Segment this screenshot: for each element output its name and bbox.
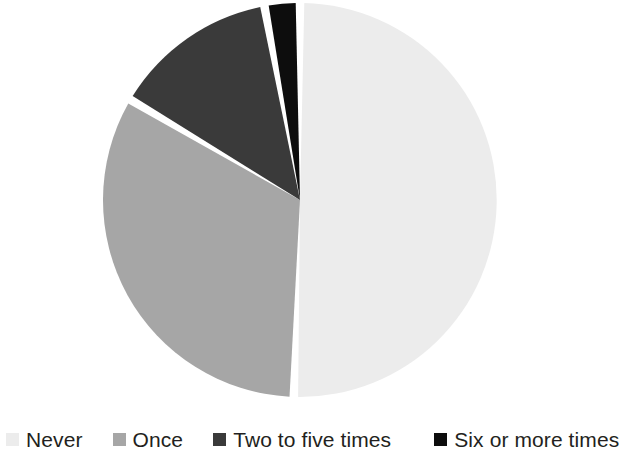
legend-label-six-or-more-times: Six or more times [454,429,619,450]
legend-swatch-never [6,433,19,446]
legend-swatch-six-or-more-times [434,433,447,446]
legend-swatch-once [113,433,126,446]
chart-legend: Never Once Two to five times Six or more… [0,420,603,458]
legend-item-once[interactable]: Once [113,429,184,450]
legend-label-once: Once [133,429,184,450]
legend-item-never[interactable]: Never [6,429,83,450]
pie-svg: NeverOnceTwo to five timesSix or more ti… [0,0,603,410]
pie-slice-never[interactable]: Never [298,3,497,397]
legend-swatch-two-to-five-times [213,433,226,446]
legend-label-two-to-five-times: Two to five times [233,429,391,450]
legend-item-two-to-five-times[interactable]: Two to five times [213,429,391,450]
legend-label-never: Never [26,429,83,450]
legend-item-six-or-more-times[interactable]: Six or more times [434,429,619,450]
pie-plot-area: NeverOnceTwo to five timesSix or more ti… [0,0,603,410]
pie-slice-group: NeverOnceTwo to five timesSix or more ti… [103,3,497,397]
